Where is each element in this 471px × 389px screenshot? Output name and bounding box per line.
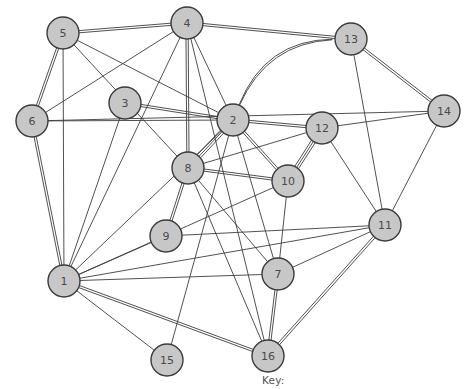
node-label: 12 — [315, 122, 329, 135]
edge-line — [295, 140, 312, 166]
edge-11-16 — [278, 236, 375, 345]
graph-node-7[interactable]: 7 — [262, 258, 294, 290]
graph-node-15[interactable]: 15 — [151, 344, 183, 376]
edge-12-8 — [203, 133, 306, 164]
edge-line — [198, 180, 267, 262]
edge-9-11 — [182, 226, 369, 235]
edge-line — [354, 55, 382, 210]
node-label: 2 — [230, 114, 237, 127]
edge-line — [36, 136, 62, 265]
edge-line — [203, 26, 335, 39]
node-label: 9 — [163, 230, 170, 243]
edge-12-11 — [331, 141, 377, 211]
edge-8-10 — [204, 169, 273, 180]
graph-node-10[interactable]: 10 — [272, 165, 304, 197]
node-label: 7 — [275, 268, 282, 281]
edge-14-11 — [392, 125, 436, 211]
edge-1-15 — [77, 291, 155, 351]
edge-line — [63, 49, 64, 265]
edges-layer — [34, 23, 437, 351]
edge-8-7 — [198, 180, 267, 262]
graph-node-11[interactable]: 11 — [369, 209, 401, 241]
graph-node-16[interactable]: 16 — [252, 340, 284, 372]
edge-line — [201, 133, 224, 158]
edge-line — [38, 48, 58, 106]
node-label: 5 — [60, 27, 67, 40]
edge-line — [338, 113, 428, 126]
edge-line — [203, 133, 306, 164]
edge-8-16 — [194, 183, 261, 342]
edge-line — [243, 133, 277, 170]
edge-line — [36, 48, 56, 106]
graph-node-13[interactable]: 13 — [335, 23, 367, 55]
edge-11-7 — [293, 232, 371, 268]
graph-node-8[interactable]: 8 — [172, 152, 204, 184]
graph-node-2[interactable]: 2 — [217, 104, 249, 136]
graph-node-3[interactable]: 3 — [109, 87, 141, 119]
edge-line — [34, 137, 60, 266]
node-label: 16 — [261, 350, 275, 363]
edge-2-8 — [197, 130, 223, 158]
edge-line — [77, 291, 155, 351]
edge-line — [182, 226, 369, 235]
key-label: Key: — [262, 374, 285, 386]
edge-line — [76, 131, 222, 270]
edge-line — [186, 39, 187, 152]
edge-line — [141, 107, 217, 119]
edge-4-8 — [186, 39, 189, 152]
edge-line — [293, 232, 371, 268]
graph-node-9[interactable]: 9 — [150, 220, 182, 252]
edge-line — [239, 39, 332, 105]
edge-1-16 — [79, 285, 254, 351]
edge-line — [280, 197, 287, 258]
edge-line — [331, 141, 377, 211]
node-label: 11 — [378, 219, 392, 232]
edge-12-10 — [295, 140, 315, 168]
edge-line — [297, 141, 314, 167]
edge-13-11 — [354, 55, 382, 210]
edge-6-1 — [34, 136, 62, 265]
node-label: 8 — [185, 162, 192, 175]
node-label: 1 — [61, 275, 68, 288]
edge-9-1 — [79, 242, 152, 274]
graph-node-5[interactable]: 5 — [47, 17, 79, 49]
graph-node-6[interactable]: 6 — [16, 105, 48, 137]
edge-3-1 — [69, 118, 120, 266]
edge-line — [69, 118, 120, 266]
edge-5-6 — [36, 48, 58, 107]
edge-line — [237, 135, 273, 258]
graph-node-4[interactable]: 4 — [171, 7, 203, 39]
node-label: 14 — [437, 105, 451, 118]
edge-12-14 — [338, 113, 428, 126]
edge-line — [80, 228, 369, 279]
edge-line — [77, 40, 219, 112]
edge-line — [279, 238, 375, 345]
graph-node-12[interactable]: 12 — [306, 112, 338, 144]
edge-2-1 — [76, 131, 222, 270]
edge-line — [170, 183, 182, 221]
edge-line — [364, 48, 432, 100]
edge-line — [298, 143, 315, 169]
edge-13-14 — [363, 48, 432, 102]
edge-11-1 — [80, 228, 369, 279]
graph-node-14[interactable]: 14 — [428, 95, 460, 127]
edge-line — [204, 169, 272, 178]
edge-line — [188, 39, 189, 152]
node-label: 15 — [160, 354, 174, 367]
edge-4-13 — [203, 23, 335, 38]
edge-line — [203, 23, 335, 36]
edge-line — [79, 288, 253, 352]
graph-node-1[interactable]: 1 — [48, 265, 80, 297]
node-label: 13 — [344, 33, 358, 46]
edge-5-1 — [63, 49, 64, 265]
edge-line — [79, 242, 152, 274]
edge-line — [204, 171, 272, 180]
edge-line — [194, 183, 261, 342]
node-label: 6 — [29, 115, 36, 128]
edge-2-7 — [237, 135, 273, 258]
edge-5-2 — [77, 40, 219, 112]
node-label: 3 — [122, 97, 129, 110]
edge-8-9 — [170, 183, 184, 221]
edge-line — [79, 285, 253, 349]
nodes-layer: 12345678910111213141516 — [16, 7, 460, 376]
